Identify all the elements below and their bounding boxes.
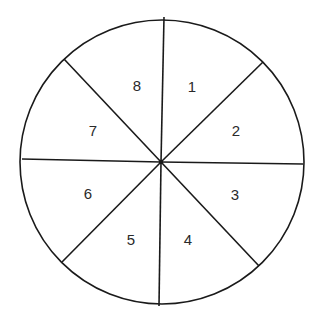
sector-circle-diagram: 1 2 3 4 5 6 7 8 (0, 0, 314, 316)
sector-label-1: 1 (188, 78, 196, 95)
sector-label-5: 5 (127, 231, 135, 248)
sector-label-3: 3 (231, 186, 239, 203)
sector-label-4: 4 (184, 231, 192, 248)
center-point (159, 160, 163, 164)
sector-label-2: 2 (232, 122, 240, 139)
sector-label-7: 7 (89, 122, 97, 139)
sector-label-8: 8 (133, 77, 141, 94)
sector-label-6: 6 (84, 185, 92, 202)
